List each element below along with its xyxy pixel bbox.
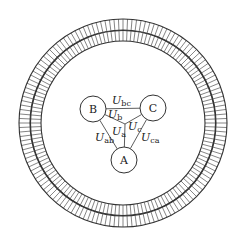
label-ua: Ua: [112, 125, 126, 139]
label-ub: Ub: [108, 108, 122, 122]
label-uca: Uca: [141, 131, 160, 145]
node-label: B: [89, 103, 97, 116]
diagram-svg: ABC UbcUabUcaUbUaUc: [0, 0, 247, 245]
node-b: B: [80, 96, 106, 122]
node-label: A: [119, 154, 129, 167]
label-uc: Uc: [128, 120, 142, 134]
label-ubc: Ubc: [112, 94, 131, 108]
diagram-canvas: ABC UbcUabUcaUbUaUc: [0, 0, 247, 245]
node-a: A: [111, 147, 137, 173]
node-c: C: [140, 95, 166, 121]
node-label: C: [149, 102, 157, 115]
